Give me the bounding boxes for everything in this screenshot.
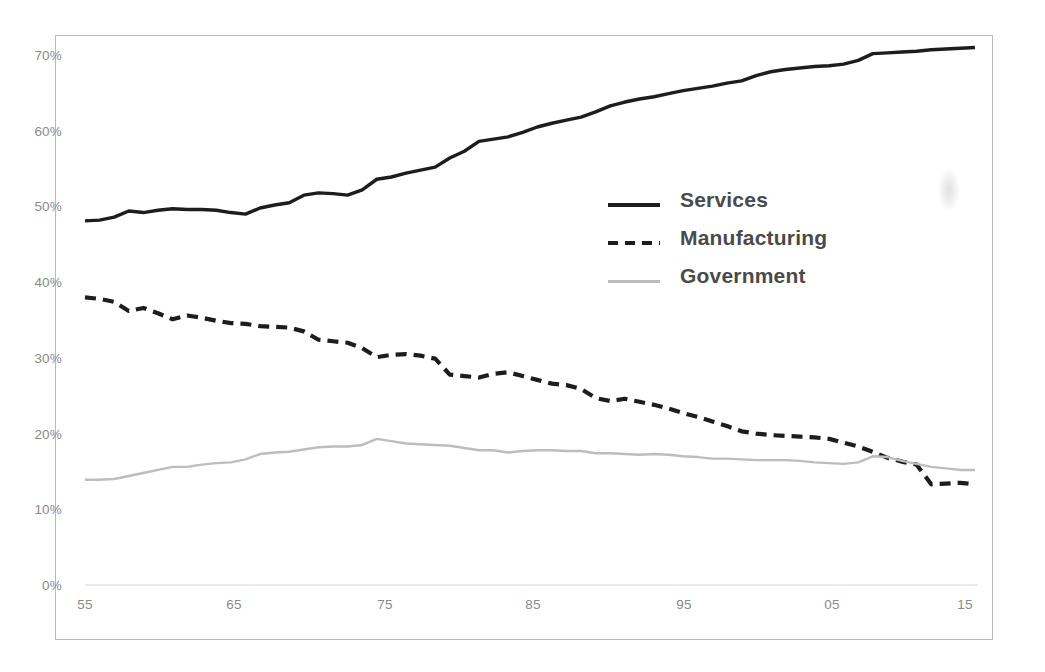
ytick-label-40: 40% [18,275,62,290]
xtick-label-95: 95 [664,597,704,612]
xtick-label-65: 65 [214,597,254,612]
xtick-label-15: 15 [945,597,985,612]
chart-legend: Services Manufacturing Government [608,188,898,302]
ytick-label-10: 10% [18,502,62,517]
ytick-label-30: 30% [18,351,62,366]
legend-label-services: Services [680,188,768,212]
xtick-label-75: 75 [365,597,405,612]
legend-item-services[interactable]: Services [608,188,898,226]
legend-label-manufacturing: Manufacturing [680,226,827,250]
ytick-label-70: 70% [18,48,62,63]
legend-item-manufacturing[interactable]: Manufacturing [608,226,898,264]
legend-line-sample-manufacturing-icon [608,241,660,245]
ytick-label-60: 60% [18,124,62,139]
ytick-label-50: 50% [18,199,62,214]
xtick-label-85: 85 [513,597,553,612]
legend-item-government[interactable]: Government [608,264,898,302]
legend-line-sample-services-icon [608,203,660,207]
xtick-label-05: 05 [812,597,852,612]
chart-plot-svg [0,0,1045,672]
ytick-label-0: 0% [18,578,62,593]
xtick-label-55: 55 [65,597,105,612]
ytick-label-20: 20% [18,427,62,442]
legend-label-government: Government [680,264,806,288]
series-line-government [85,439,975,480]
legend-line-sample-government-icon [608,280,660,283]
series-line-manufacturing [85,297,975,484]
chart-page: 70% 60% 50% 40% 30% 20% 10% 0% 55 65 75 … [0,0,1045,672]
